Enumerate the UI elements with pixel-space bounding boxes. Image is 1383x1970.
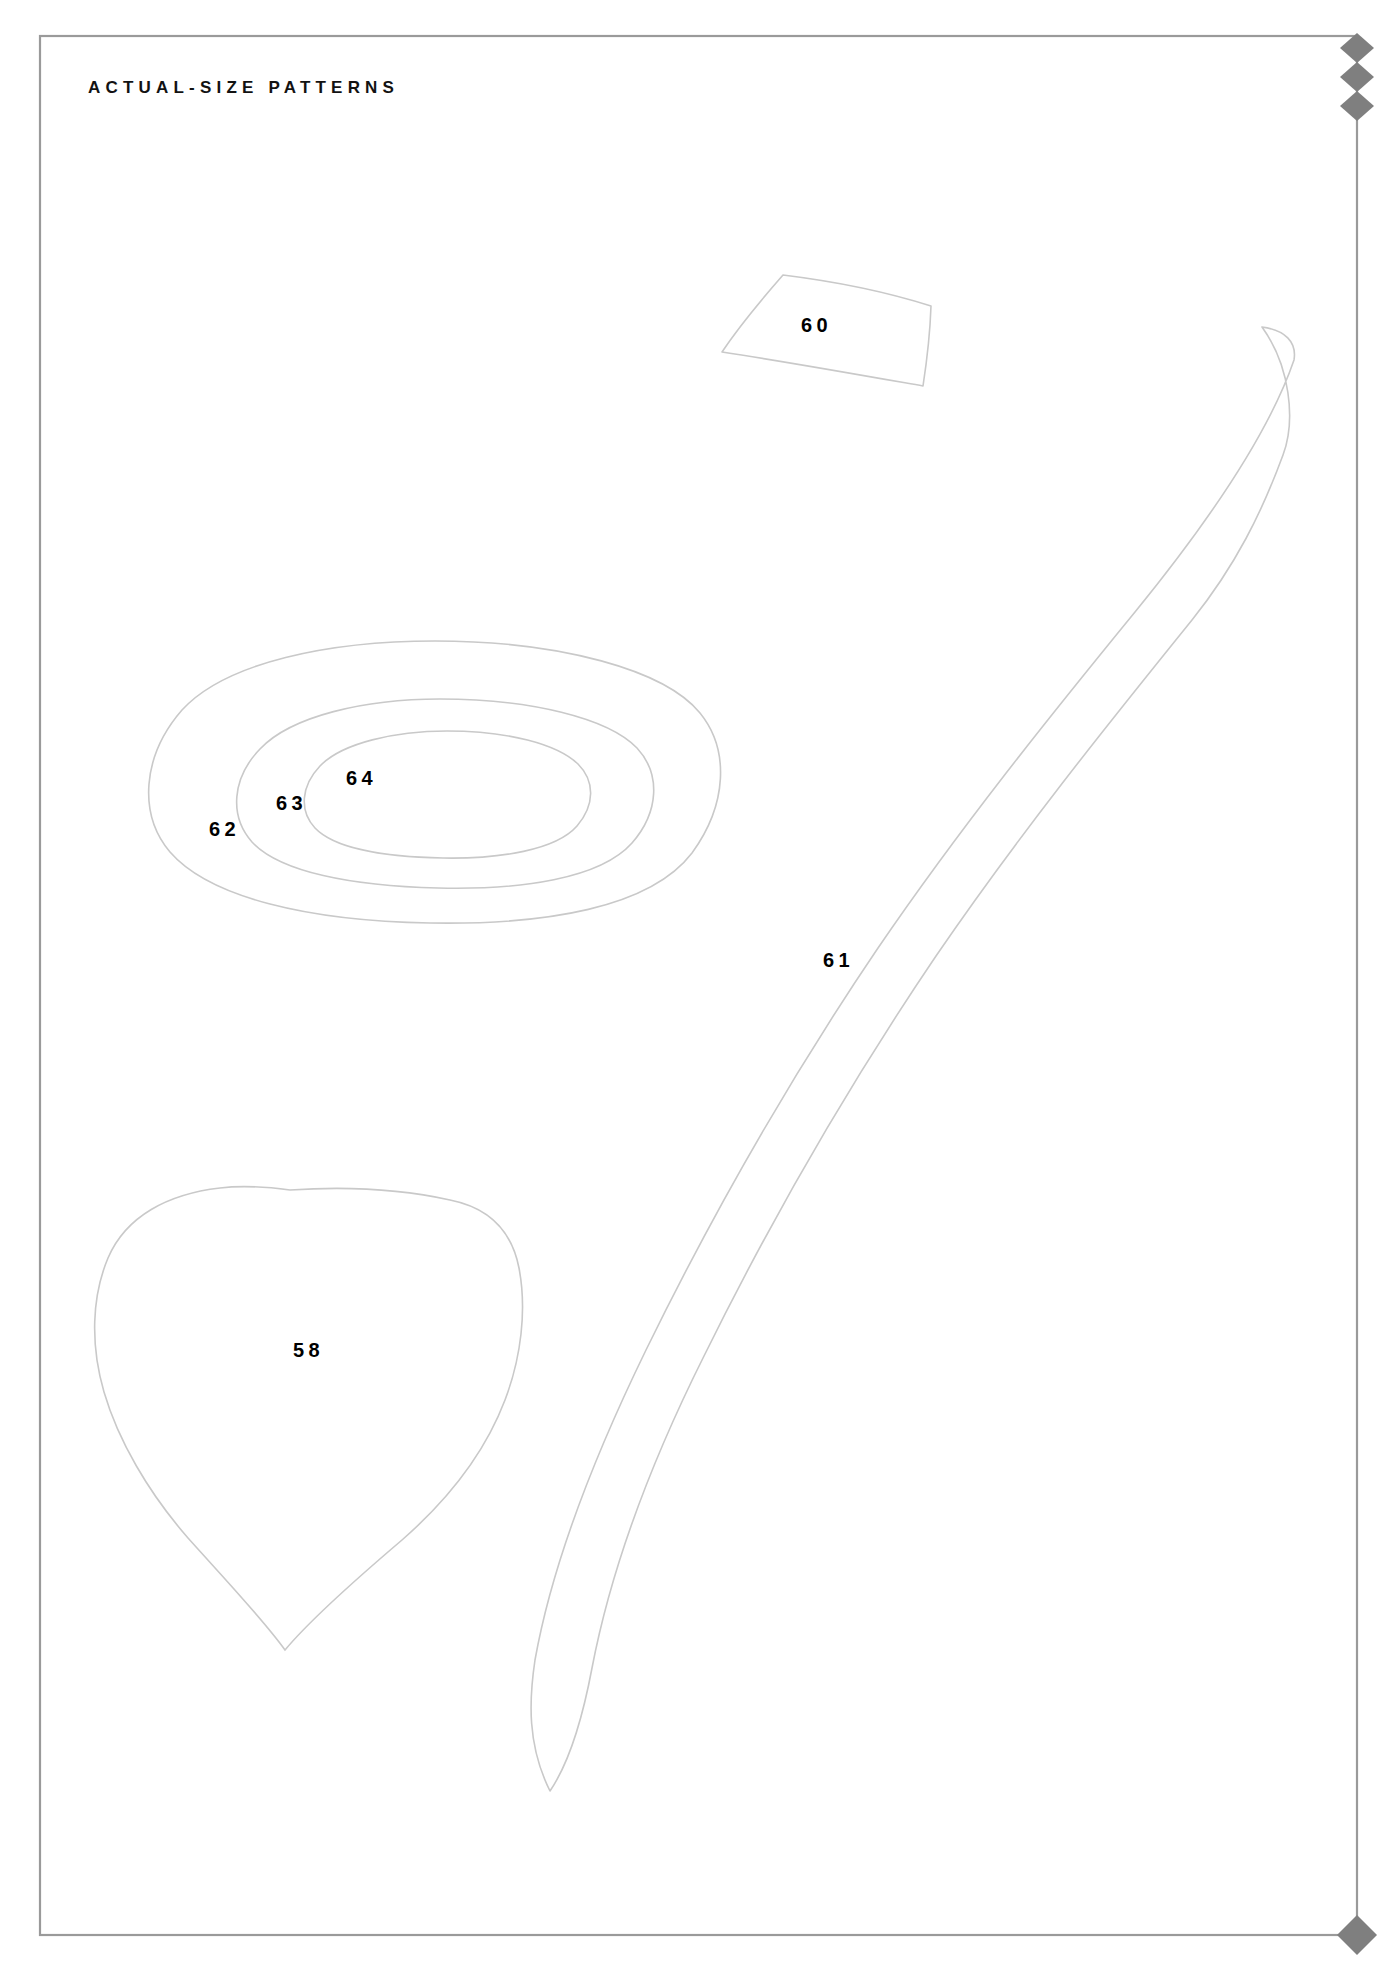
- pattern-piece-58: [95, 1187, 523, 1650]
- bottom-right-diamond-marker: [1337, 1915, 1377, 1955]
- border-rectangle: [40, 36, 1357, 1935]
- diamond-marker-icon: [1340, 91, 1374, 121]
- pattern-outline-58: [95, 1187, 523, 1650]
- pattern-sheet-canvas: [0, 0, 1383, 1970]
- pattern-label-61: 61: [823, 950, 854, 970]
- pattern-piece-64: [304, 731, 590, 858]
- diamond-marker-icon: [1340, 33, 1374, 63]
- diamond-marker-icon: [1337, 1915, 1377, 1955]
- pattern-label-62: 62: [209, 819, 240, 839]
- pattern-label-58: 58: [293, 1340, 324, 1360]
- diamond-marker-icon: [1340, 62, 1374, 92]
- pattern-sheet-page: ACTUAL-SIZE PATTERNS 60 61 62 63 64 58: [0, 0, 1383, 1970]
- pattern-outline-61: [531, 327, 1294, 1791]
- pattern-piece-61: [531, 327, 1294, 1791]
- pattern-outline-64: [304, 731, 590, 858]
- top-right-diamond-markers: [1340, 33, 1374, 121]
- page-title: ACTUAL-SIZE PATTERNS: [88, 79, 399, 96]
- pattern-label-60: 60: [801, 315, 832, 335]
- pattern-label-64: 64: [346, 768, 377, 788]
- page-border-frame: [40, 36, 1357, 1935]
- pattern-label-63: 63: [276, 793, 307, 813]
